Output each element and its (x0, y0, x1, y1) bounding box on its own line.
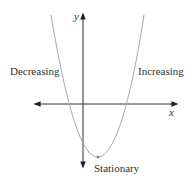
stationary-label: Stationary (94, 162, 140, 174)
parabola-curve (51, 15, 144, 157)
decreasing-label: Decreasing (10, 65, 60, 77)
x-axis-label: x (168, 106, 174, 118)
y-axis-label: y (73, 10, 79, 22)
parabola-diagram: y x Decreasing Increasing Stationary (0, 0, 193, 180)
increasing-label: Increasing (138, 65, 184, 77)
stationary-point-marker (97, 156, 100, 159)
